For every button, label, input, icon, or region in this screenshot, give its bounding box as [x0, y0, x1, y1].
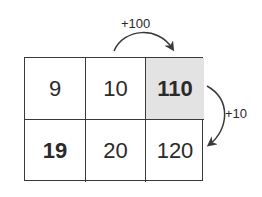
- plus-10-arrow-icon: [207, 86, 225, 144]
- number-grid: 9 10 110 19 20 120: [24, 57, 203, 181]
- plus-10-label: +10: [225, 106, 247, 121]
- cell-20: 20: [86, 120, 146, 182]
- plus-100-label: +100: [121, 16, 150, 31]
- cell-120: 120: [146, 120, 204, 182]
- cell-10: 10: [86, 58, 146, 120]
- plus-100-arrow-icon: [114, 33, 172, 51]
- cell-110: 110: [146, 58, 204, 120]
- cell-9: 9: [25, 58, 86, 120]
- cell-19: 19: [25, 120, 86, 182]
